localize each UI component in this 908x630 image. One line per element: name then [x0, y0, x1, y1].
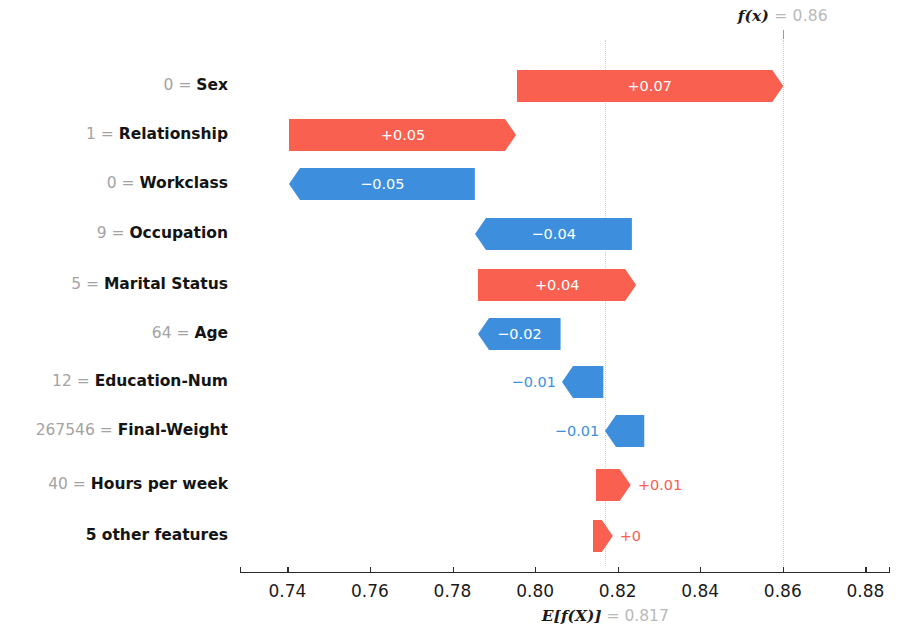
output-value-equals: =	[774, 7, 787, 25]
feature-name: Occupation	[129, 224, 228, 242]
feature-value: 1	[86, 125, 96, 143]
feature-value: 267546	[36, 421, 95, 439]
feature-name: Workclass	[139, 174, 228, 192]
feature-name: Relationship	[119, 125, 228, 143]
feature-value: 40	[48, 475, 68, 493]
feature-equals: =	[68, 475, 91, 493]
waterfall-bar	[475, 218, 632, 250]
x-axis-tick	[287, 567, 288, 573]
waterfall-bar	[605, 415, 644, 447]
feature-name: Final-Weight	[118, 421, 228, 439]
feature-label: 40 = Hours per week	[48, 477, 228, 493]
waterfall-bar	[562, 366, 603, 398]
x-axis-line	[240, 572, 889, 573]
feature-label: 0 = Workclass	[107, 176, 228, 192]
output-value-number: 0.86	[793, 7, 828, 25]
feature-name: Hours per week	[91, 475, 228, 493]
base-value-symbol: E[f(X)]	[542, 606, 602, 625]
feature-label: 9 = Occupation	[97, 226, 228, 242]
output-value-annotation: f(x) = 0.86	[738, 6, 828, 25]
feature-label: 5 other features	[86, 528, 228, 544]
x-axis-tick	[865, 567, 866, 573]
feature-name: Marital Status	[104, 275, 228, 293]
feature-label: 12 = Education-Num	[52, 374, 228, 390]
x-axis-tick	[700, 567, 701, 573]
feature-label: 5 = Marital Status	[71, 277, 228, 293]
waterfall-bar	[593, 520, 613, 552]
x-axis-tick-label: 0.78	[434, 581, 472, 601]
feature-value: 5	[71, 275, 81, 293]
feature-label: 267546 = Final-Weight	[36, 423, 228, 439]
feature-name: Age	[194, 324, 228, 342]
x-axis-tick	[535, 567, 536, 573]
waterfall-bar	[289, 119, 516, 151]
x-axis-tick-label: 0.74	[268, 581, 306, 601]
x-axis-end-cap	[889, 567, 890, 573]
feature-value: 64	[152, 324, 172, 342]
x-axis-start-cap	[240, 567, 241, 573]
feature-equals: =	[107, 224, 130, 242]
feature-equals: =	[95, 421, 118, 439]
feature-value: 12	[52, 372, 72, 390]
waterfall-bar	[289, 168, 475, 200]
x-axis-tick-label: 0.76	[351, 581, 389, 601]
bar-value-label: +0.01	[638, 478, 682, 493]
x-axis-tick-label: 0.86	[764, 581, 802, 601]
feature-name: 5 other features	[86, 526, 228, 544]
waterfall-bar	[596, 469, 631, 501]
feature-label: 0 = Sex	[164, 78, 228, 94]
feature-name: Sex	[196, 76, 228, 94]
feature-value: 0	[107, 174, 117, 192]
feature-equals: =	[81, 275, 104, 293]
feature-name: Education-Num	[95, 372, 228, 390]
bar-value-label: +0	[620, 529, 641, 544]
waterfall-bar	[517, 70, 783, 102]
feature-label: 64 = Age	[152, 326, 228, 342]
shap-waterfall-plot: f(x) = 0.86 0 = Sex+0.071 = Relationship…	[0, 0, 908, 630]
waterfall-bar	[478, 269, 636, 301]
output-value-gridline	[783, 40, 785, 566]
x-axis-tick	[783, 567, 784, 573]
base-value-number: 0.817	[624, 607, 668, 625]
feature-equals: =	[173, 76, 196, 94]
x-axis-tick-label: 0.88	[846, 581, 884, 601]
base-value-annotation: E[f(X)] = 0.817	[542, 606, 669, 625]
feature-equals: =	[96, 125, 119, 143]
x-axis-tick	[618, 567, 619, 573]
x-axis-tick-label: 0.80	[516, 581, 554, 601]
x-axis-tick-label: 0.84	[681, 581, 719, 601]
feature-label: 1 = Relationship	[86, 127, 228, 143]
base-value-equals: =	[607, 607, 620, 625]
feature-equals: =	[72, 372, 95, 390]
output-value-tick	[783, 30, 784, 39]
feature-equals: =	[172, 324, 195, 342]
feature-value: 0	[164, 76, 174, 94]
output-value-symbol: f(x)	[738, 6, 769, 25]
feature-value: 9	[97, 224, 107, 242]
x-axis-tick	[453, 567, 454, 573]
feature-equals: =	[117, 174, 140, 192]
x-axis-tick	[370, 567, 371, 573]
waterfall-bar	[478, 318, 561, 350]
x-axis-tick-label: 0.82	[599, 581, 637, 601]
